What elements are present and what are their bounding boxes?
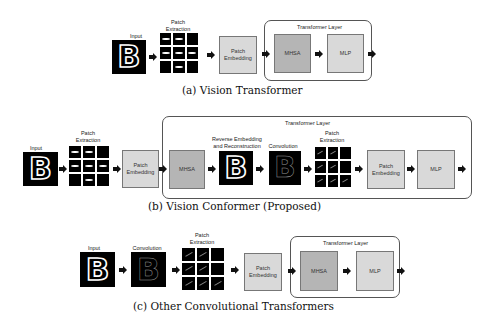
input-label: Input bbox=[79, 245, 109, 252]
input-image: B bbox=[80, 252, 115, 287]
convolution-image: B bbox=[131, 252, 166, 287]
transformer-layer-label: Transformer Layer bbox=[323, 240, 368, 246]
patch-extraction-label-2: Patch Extraction bbox=[314, 130, 350, 143]
patch-extraction-label: Patch Extraction bbox=[182, 232, 222, 245]
mlp-block: MLP bbox=[356, 251, 394, 291]
patch-embedding-block: Patch Embedding bbox=[122, 150, 159, 188]
patch-grid bbox=[69, 146, 109, 186]
convolution-label: Convolution bbox=[266, 143, 300, 150]
input-image: B bbox=[112, 40, 146, 74]
reconstructed-image: B bbox=[219, 151, 253, 185]
input-label: Input bbox=[22, 145, 50, 152]
transformer-layer-label: Transformer Layer bbox=[297, 24, 342, 30]
mlp-block: MLP bbox=[327, 34, 364, 73]
letter-b-outline-glyph: B bbox=[274, 154, 295, 182]
input-image: B bbox=[23, 152, 58, 186]
letter-b-glyph: B bbox=[225, 153, 248, 183]
caption-c: (c) Other Convolutional Transformers bbox=[133, 300, 334, 312]
patch-embedding-block: Patch Embedding bbox=[244, 253, 282, 291]
letter-b-glyph: B bbox=[29, 154, 52, 184]
caption-a: (a) Vision Transformer bbox=[182, 84, 303, 96]
convolution-image: B bbox=[269, 151, 301, 185]
input-label: Input bbox=[118, 33, 154, 40]
letter-b-glyph: B bbox=[118, 42, 141, 72]
letter-b-outline-glyph: B bbox=[137, 255, 160, 285]
mhsa-block: MHSA bbox=[274, 34, 311, 73]
patch-embedding-block-2: Patch Embedding bbox=[367, 150, 405, 189]
patch-grid bbox=[160, 33, 198, 73]
reverse-embedding-label: Reverse Embedding and Reconstruction bbox=[209, 136, 265, 149]
patch-extraction-label: Patch Extraction bbox=[158, 19, 198, 32]
conv-patch-grid bbox=[315, 147, 351, 187]
convolution-label: Convolution bbox=[129, 245, 165, 252]
patch-embedding-block: Patch Embedding bbox=[219, 36, 257, 74]
mlp-block: MLP bbox=[417, 150, 455, 189]
caption-b: (b) Vision Conformer (Proposed) bbox=[148, 200, 321, 212]
mhsa-block: MHSA bbox=[169, 150, 205, 189]
letter-b-glyph: B bbox=[86, 254, 110, 285]
conv-patch-grid bbox=[182, 248, 224, 290]
patch-extraction-label: Patch Extraction bbox=[67, 130, 109, 143]
mhsa-block: MHSA bbox=[300, 251, 338, 291]
transformer-layer-label: Transformer Layer bbox=[285, 120, 330, 126]
